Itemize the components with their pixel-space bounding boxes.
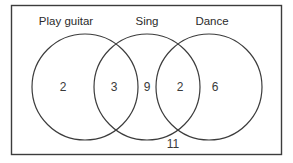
count-sing-and-dance: 2	[177, 80, 184, 94]
set-label-play-guitar: Play guitar	[39, 15, 94, 27]
count-guitar-only: 2	[60, 80, 67, 94]
count-dance-only: 6	[212, 80, 219, 94]
count-outside-all-sets: 11	[167, 137, 180, 151]
venn-diagram-figure: Play guitar Sing Dance 2 3 9 2 6 11	[0, 0, 293, 163]
venn-diagram-canvas: Play guitar Sing Dance 2 3 9 2 6 11	[0, 0, 293, 163]
count-sing-only: 9	[144, 80, 151, 94]
set-label-sing: Sing	[135, 15, 158, 27]
count-guitar-and-sing: 3	[111, 80, 118, 94]
set-label-dance: Dance	[195, 15, 228, 27]
